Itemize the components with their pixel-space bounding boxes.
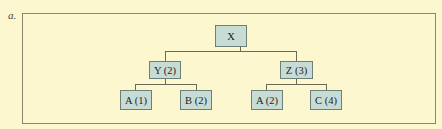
connector-to-y — [165, 51, 166, 61]
node-a2: A (2) — [251, 90, 283, 110]
connector-root-horizontal — [165, 51, 296, 52]
node-y: Y (2) — [149, 61, 181, 79]
node-c4: C (4) — [310, 90, 342, 110]
node-root-x: X — [215, 25, 247, 47]
connector-z-horizontal — [266, 84, 326, 85]
connector-to-z — [296, 51, 297, 61]
node-b2: B (2) — [180, 90, 212, 110]
node-a1: A (1) — [120, 90, 152, 110]
connector-y-horizontal — [135, 84, 196, 85]
node-z: Z (3) — [280, 61, 313, 79]
figure-label: a. — [8, 9, 16, 21]
